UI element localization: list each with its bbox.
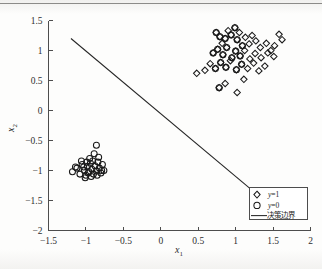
circle-marker	[239, 43, 245, 49]
x-tick-label: 1	[233, 236, 238, 246]
circle-marker	[228, 32, 234, 38]
circle-marker	[212, 66, 218, 72]
y-axis-ticks	[49, 21, 53, 231]
plot-legend: y=1 y=0 决策边界	[250, 188, 308, 221]
y-axis-tick-labels: −2−1.5−1−0.500.511.5	[25, 16, 42, 236]
circle-marker	[224, 45, 230, 51]
diamond-marker	[242, 34, 248, 40]
x-tick-label: −0.5	[115, 236, 132, 246]
diamond-marker	[241, 76, 247, 82]
series-y1-diamond-markers	[194, 25, 286, 96]
diamond-marker	[244, 65, 250, 71]
circle-marker	[220, 52, 226, 58]
diamond-marker	[271, 53, 277, 59]
legend-label-boundary: 决策边界	[267, 210, 296, 220]
circle-marker	[232, 25, 238, 31]
y-tick-label: 1.5	[31, 16, 43, 26]
legend-label-y0: y=0	[267, 201, 280, 210]
diamond-marker	[256, 68, 262, 74]
circle-marker	[233, 67, 239, 73]
y-tick-label: −1	[32, 166, 42, 176]
circle-marker	[93, 142, 99, 148]
diamond-marker	[246, 41, 252, 47]
diamond-marker	[194, 70, 200, 76]
y-tick-label: 1	[38, 46, 43, 56]
diamond-marker	[249, 32, 255, 38]
x-axis-ticks	[49, 227, 311, 231]
circle-marker	[223, 64, 229, 70]
scatter-plot-svg: −1.5−1−0.500.511.52 −2−1.5−1−0.500.511.5…	[0, 0, 322, 269]
y-tick-label: 0	[38, 106, 43, 116]
y-tick-label: −1.5	[25, 196, 42, 206]
legend-label-y1: y=1	[267, 190, 280, 199]
circle-marker	[222, 36, 228, 42]
diamond-marker	[252, 50, 258, 56]
circle-marker	[234, 37, 240, 43]
x-tick-label: 2	[308, 236, 313, 246]
x-tick-label: 0	[158, 236, 163, 246]
diamond-marker	[222, 80, 228, 86]
y-tick-label: 0.5	[31, 76, 43, 86]
circle-marker	[237, 53, 243, 59]
y-tick-label: −2	[32, 226, 42, 236]
circle-marker	[216, 85, 222, 91]
x-tick-label: 1.5	[267, 236, 279, 246]
circle-marker	[210, 50, 216, 56]
x-axis-label: x1	[174, 244, 183, 258]
diamond-marker	[258, 55, 264, 61]
diamond-marker	[202, 67, 208, 73]
circle-marker	[239, 61, 245, 67]
data-markers	[69, 25, 285, 181]
circle-marker	[72, 164, 78, 170]
diamond-marker	[207, 61, 213, 67]
diamond-marker	[271, 43, 277, 49]
x-tick-label: −1	[81, 236, 91, 246]
circle-marker	[218, 60, 224, 66]
x-tick-label: 0.5	[192, 236, 204, 246]
figure-canvas: −1.5−1−0.500.511.52 −2−1.5−1−0.500.511.5…	[0, 0, 322, 269]
y-tick-label: −0.5	[25, 136, 42, 146]
diamond-marker	[263, 40, 269, 46]
y-axis-label: x2	[5, 124, 19, 133]
diamond-marker	[257, 44, 263, 50]
diamond-marker	[262, 63, 268, 69]
diamond-marker	[253, 38, 259, 44]
x-tick-label: −1.5	[40, 236, 57, 246]
circle-marker	[233, 48, 239, 54]
diamond-marker	[234, 89, 240, 95]
